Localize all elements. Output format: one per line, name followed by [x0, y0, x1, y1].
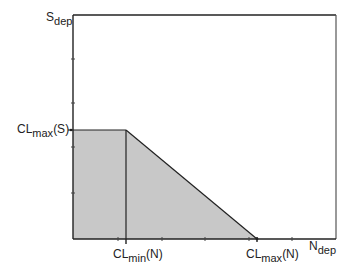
- x-axis-label: Ndep: [309, 239, 336, 256]
- feasible-region: [73, 130, 257, 239]
- y-marker-label: CLmax(S): [17, 122, 69, 139]
- x-axis-label-base: N: [309, 239, 318, 253]
- y-marker-suffix: (S): [53, 122, 69, 136]
- x-marker-min-base: CL: [113, 247, 128, 261]
- y-axis-label: Sdep: [46, 10, 72, 27]
- x-marker-max-label: CLmax(N): [246, 247, 299, 264]
- x-marker-min-suffix: (N): [146, 247, 163, 261]
- y-marker-sub: max: [32, 127, 53, 139]
- y-axis-label-sub: dep: [54, 15, 72, 27]
- y-marker-base: CL: [17, 122, 32, 136]
- x-marker-max-dot: [256, 238, 259, 241]
- y-marker-dot: [70, 129, 73, 132]
- y-axis-label-base: S: [46, 10, 54, 24]
- x-marker-max-base: CL: [246, 247, 261, 261]
- x-marker-min-label: CLmin(N): [113, 247, 163, 264]
- x-axis-label-sub: dep: [318, 244, 336, 256]
- x-marker-min-sub: min: [128, 252, 146, 264]
- x-marker-max-suffix: (N): [282, 247, 299, 261]
- x-marker-max-sub: max: [261, 252, 282, 264]
